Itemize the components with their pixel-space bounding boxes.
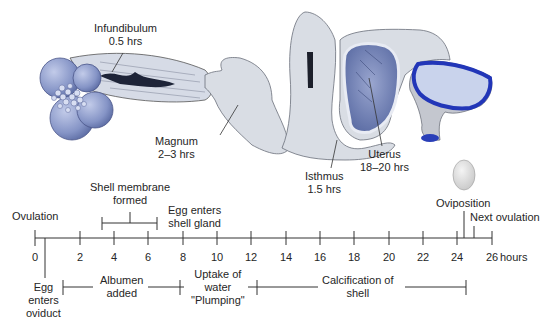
infundibulum-name: Infundibulum: [94, 22, 157, 35]
magnum-label: Magnum 2–3 hrs: [155, 135, 198, 161]
tick-26: 26: [486, 251, 498, 263]
albumen-label: Albumen added: [100, 274, 143, 300]
water-line2: water: [191, 281, 245, 294]
ovulation-label: Ovulation: [12, 210, 58, 223]
tick-4: 4: [111, 251, 117, 263]
tick-16: 16: [314, 251, 326, 263]
unit-label: hours: [500, 251, 528, 264]
egg-enters-line3: oviduct: [26, 307, 61, 320]
oviposition-label: Oviposition: [436, 197, 490, 210]
tick-14: 14: [280, 251, 292, 263]
infundibulum-label: Infundibulum 0.5 hrs: [94, 22, 157, 48]
uterus-label: Uterus 18–20 hrs: [360, 148, 409, 174]
tick-22: 22: [417, 251, 429, 263]
water-uptake-label: Uptake of water "Plumping": [191, 268, 245, 307]
vagina-shape: [409, 61, 491, 142]
isthmus-time: 1.5 hrs: [305, 183, 344, 196]
albumen-line2: added: [100, 287, 143, 300]
egg-shape: [453, 160, 475, 190]
shell-membrane-line1: Shell membrane: [90, 181, 170, 194]
calcification-line1: Calcification of: [322, 274, 394, 287]
oviduct-illustration: [0, 0, 545, 327]
uterus-name: Uterus: [360, 148, 409, 161]
infundibulum-time: 0.5 hrs: [94, 35, 157, 48]
uterus-time: 18–20 hrs: [360, 161, 409, 174]
tick-0: 0: [32, 251, 38, 263]
shell-membrane-label: Shell membrane formed: [90, 181, 170, 207]
shell-gland-label: Egg enters shell gland: [168, 204, 221, 230]
tick-2: 2: [77, 251, 83, 263]
calcification-line2: shell: [322, 287, 394, 300]
magnum-name: Magnum: [155, 135, 198, 148]
tick-10: 10: [211, 251, 223, 263]
calcification-label: Calcification of shell: [322, 274, 394, 300]
water-line1: Uptake of: [191, 268, 245, 281]
magnum-shape: [205, 58, 288, 154]
tick-18: 18: [348, 251, 360, 263]
tick-12: 12: [245, 251, 257, 263]
isthmus-name: Isthmus: [305, 170, 344, 183]
egg-enters-line1: Egg: [26, 281, 61, 294]
tick-24: 24: [451, 251, 463, 263]
egg-enters-line2: enters: [26, 294, 61, 307]
shell-gland-line1: Egg enters: [168, 204, 221, 217]
shell-gland-line2: shell gland: [168, 217, 221, 230]
tick-6: 6: [145, 251, 151, 263]
tick-20: 20: [383, 251, 395, 263]
water-line3: "Plumping": [191, 294, 245, 307]
next-ovulation-label: Next ovulation: [470, 211, 540, 224]
isthmus-label: Isthmus 1.5 hrs: [305, 170, 344, 196]
shell-membrane-line2: formed: [90, 194, 170, 207]
egg-enters-oviduct-label: Egg enters oviduct: [26, 281, 61, 320]
albumen-line1: Albumen: [100, 274, 143, 287]
magnum-time: 2–3 hrs: [155, 148, 198, 161]
tick-8: 8: [180, 251, 186, 263]
